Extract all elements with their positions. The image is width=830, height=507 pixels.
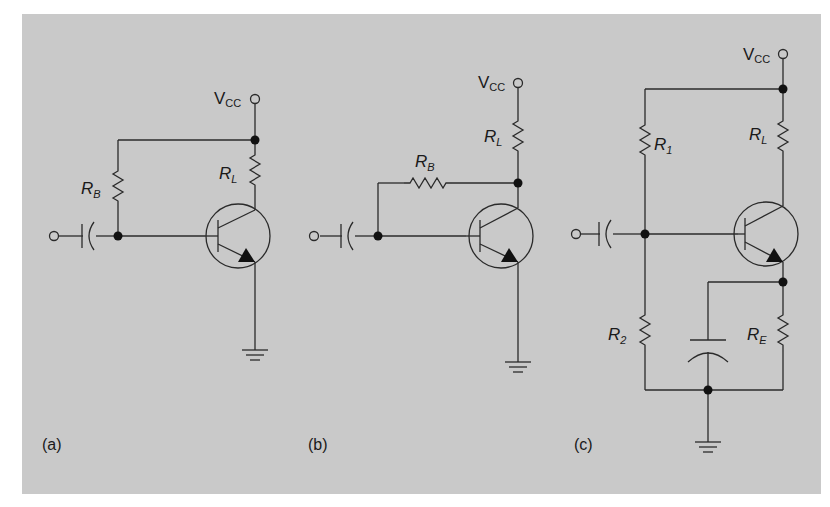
circuit-b: VCC RB RL (b) xyxy=(308,73,533,453)
rl-label: RL xyxy=(219,164,237,185)
rl-label: RL xyxy=(484,127,502,148)
caption-b: (b) xyxy=(308,436,328,453)
input-terminal xyxy=(310,232,319,241)
circuit-diagrams: VCC RB RL (a) xyxy=(0,0,830,507)
caption-a: (a) xyxy=(42,436,62,453)
re-label: RE xyxy=(747,325,767,346)
rb-label: RB xyxy=(415,152,435,173)
circuit-c: VCC R1 R2 RL RE (c) xyxy=(572,45,799,453)
caption-c: (c) xyxy=(574,436,593,453)
vcc-label: VCC xyxy=(478,73,505,93)
rb-label: RB xyxy=(81,179,101,200)
vcc-terminal xyxy=(779,50,788,59)
r1-label: R1 xyxy=(654,135,672,156)
circuit-a: VCC RB RL (a) xyxy=(42,89,270,453)
input-terminal xyxy=(572,230,581,239)
vcc-terminal xyxy=(251,95,260,104)
rl-label: RL xyxy=(749,125,767,146)
vcc-label: VCC xyxy=(214,89,241,109)
r2-label: R2 xyxy=(608,325,626,346)
vcc-label: VCC xyxy=(743,45,770,65)
vcc-terminal xyxy=(514,79,523,88)
input-terminal xyxy=(50,232,59,241)
